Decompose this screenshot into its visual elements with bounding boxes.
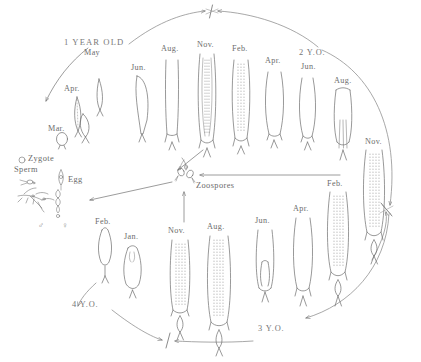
month-label-aug-3: Aug. xyxy=(207,223,225,231)
month-label-feb-1: Feb. xyxy=(232,45,248,53)
specimen-nov-3 xyxy=(170,240,190,340)
month-label-jun-3: Jun. xyxy=(255,217,270,225)
specimen-jun-2 xyxy=(299,78,315,150)
month-label-feb-2: Feb. xyxy=(327,180,343,188)
month-label-nov-3: Nov. xyxy=(168,227,185,235)
month-label-aug-1: Aug. xyxy=(161,45,179,53)
stage-label-year4: 4 Y.O. xyxy=(72,301,99,309)
stage-label-year2: 2 Y.O. xyxy=(299,49,326,57)
term-label-sperm: Sperm xyxy=(14,166,38,174)
specimen-may-1 xyxy=(97,79,103,116)
specimen-nov-1 xyxy=(198,54,216,157)
specimen-jun-3 xyxy=(256,230,274,302)
sorus-to-spores xyxy=(178,150,203,170)
stage-label-year1: 1 YEAR OLD xyxy=(64,38,124,47)
sperm-glyph xyxy=(20,180,35,185)
month-label-mar: Mar. xyxy=(48,125,65,133)
specimen-feb-3 xyxy=(98,228,111,283)
specimen-aug-1 xyxy=(165,60,179,150)
specimen-apr-3 xyxy=(293,218,312,306)
tick-bottom xyxy=(166,333,170,348)
specimen-jan xyxy=(124,246,141,298)
month-label-jun-2: Jun. xyxy=(301,63,316,71)
zoospore-cluster xyxy=(175,158,195,183)
arc-top-left xyxy=(129,11,205,44)
specimen-aug-2 xyxy=(334,88,352,160)
life-cycle-diagram: 1 YEAR OLD May Apr. Mar. Jun. Aug. Nov. … xyxy=(0,0,421,362)
spores-to-gam xyxy=(90,182,172,200)
arc-right-descend xyxy=(306,214,389,318)
female-gametophyte xyxy=(56,190,61,218)
specimen-apr-2 xyxy=(265,72,283,148)
male-symbol: ♂ xyxy=(38,222,44,230)
specimen-may-2 xyxy=(80,114,89,143)
specimen-nov-2 xyxy=(363,150,384,264)
month-label-jun-1: Jun. xyxy=(131,64,146,72)
month-label-nov-2: Nov. xyxy=(365,138,382,146)
term-label-zoospores: Zoospores xyxy=(196,182,235,190)
term-label-egg: Egg xyxy=(68,176,83,184)
month-label-may: May xyxy=(84,49,100,57)
month-label-jan: Jan. xyxy=(124,233,138,241)
specimen-aug-3 xyxy=(207,236,230,356)
specimen-jun-1 xyxy=(136,76,148,142)
tick-top xyxy=(206,5,218,18)
term-label-zygote: Zygote xyxy=(28,155,54,163)
month-label-nov-1: Nov. xyxy=(197,41,214,49)
specimen-feb-1 xyxy=(232,60,250,154)
month-label-apr-3: Apr. xyxy=(293,205,309,213)
specimen-mar xyxy=(57,133,68,150)
egg-glyph xyxy=(59,170,64,190)
male-gametophyte xyxy=(18,188,54,212)
month-label-feb-3: Feb. xyxy=(95,218,111,226)
specimen-apr-1 xyxy=(75,97,82,137)
stage-label-year3: 3 Y.O. xyxy=(258,325,285,333)
month-label-apr-1: Apr. xyxy=(64,85,80,93)
female-symbol: ♀ xyxy=(62,222,68,230)
month-label-apr-2: Apr. xyxy=(265,57,281,65)
month-label-aug-2: Aug. xyxy=(334,77,352,85)
specimen-feb-2 xyxy=(327,192,348,306)
arc-bottom-left xyxy=(112,310,162,340)
arc-top-right xyxy=(218,11,318,47)
zygote-glyph xyxy=(19,157,25,163)
arc-bottom-right xyxy=(175,341,253,342)
